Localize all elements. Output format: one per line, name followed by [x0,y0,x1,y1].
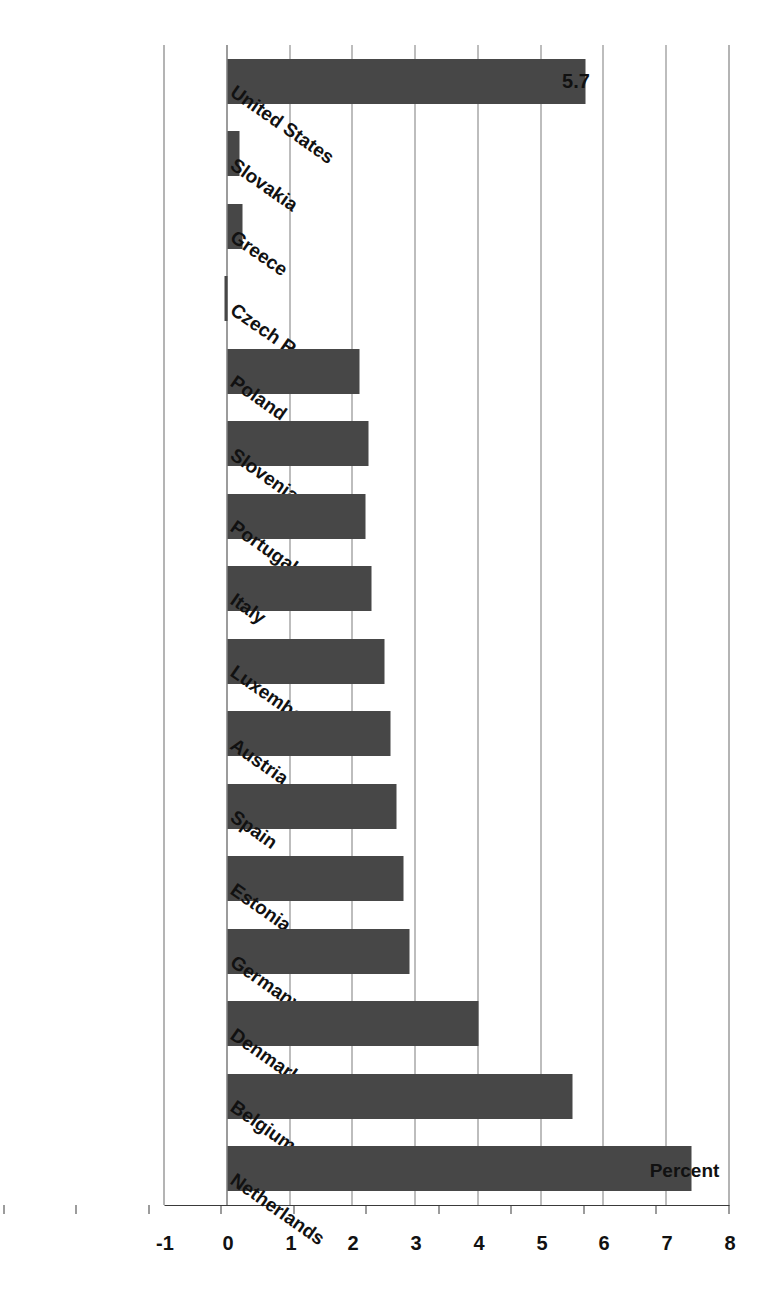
value-tick-label: 2 [333,1232,373,1255]
data-label: 5.7 [555,70,595,93]
bar [227,1001,478,1046]
chart-page: 876543210-1United States5.7SlovakiaGreec… [0,0,779,1296]
gridline-5 [540,45,541,1205]
category-label: Greece [225,226,290,281]
gridline-7 [665,45,666,1205]
value-tick-label: 6 [584,1232,624,1255]
category-tick [3,1205,4,1214]
value-tick-label: 5 [521,1232,561,1255]
value-tick-label: 7 [647,1232,687,1255]
category-tick [728,1205,729,1214]
category-axis [164,1205,729,1206]
axis-title: Percent [649,1160,719,1182]
bar [227,1074,572,1119]
category-tick [76,1205,77,1214]
category-tick [438,1205,439,1214]
value-tick-label: 0 [207,1232,247,1255]
category-tick [583,1205,584,1214]
value-tick-label: -1 [145,1232,185,1255]
bar [227,59,585,104]
value-tick-label: 4 [458,1232,498,1255]
bar-chart: 876543210-1United States5.7SlovakiaGreec… [0,0,779,1296]
plot-area: 876543210-1United States5.7SlovakiaGreec… [164,45,729,1205]
category-tick [366,1205,367,1214]
value-tick-label: 3 [396,1232,436,1255]
value-tick-label: 8 [710,1232,750,1255]
category-tick [221,1205,222,1214]
gridline-6 [602,45,603,1205]
category-tick [148,1205,149,1214]
bar [227,1146,692,1191]
category-tick [511,1205,512,1214]
gridline-8 [728,45,729,1205]
gridline--1 [163,45,164,1205]
category-tick [656,1205,657,1214]
